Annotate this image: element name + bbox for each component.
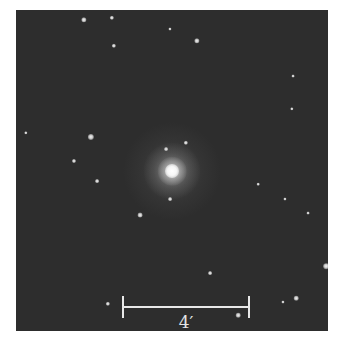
star xyxy=(88,134,94,140)
galaxy-core xyxy=(165,164,179,178)
star xyxy=(24,131,27,134)
star xyxy=(236,313,241,318)
star xyxy=(281,300,284,303)
star xyxy=(290,107,293,110)
scale-bar-left-tick xyxy=(122,296,124,318)
star xyxy=(208,271,212,275)
star xyxy=(81,17,86,22)
star xyxy=(257,183,260,186)
star xyxy=(110,16,114,20)
scale-bar-line xyxy=(123,306,249,308)
star xyxy=(168,197,172,201)
star xyxy=(307,212,310,215)
star xyxy=(283,197,286,200)
star xyxy=(72,159,76,163)
star xyxy=(294,296,299,301)
galaxy-image: 4′ xyxy=(16,10,328,331)
scale-bar-right-tick xyxy=(248,296,250,318)
star xyxy=(168,27,171,30)
star xyxy=(164,147,168,151)
star xyxy=(323,263,328,269)
scale-bar-label: 4′ xyxy=(179,314,194,331)
star xyxy=(138,213,143,218)
star xyxy=(292,75,295,78)
star xyxy=(95,179,99,183)
star xyxy=(194,38,199,43)
star xyxy=(106,302,110,306)
star xyxy=(112,44,116,48)
